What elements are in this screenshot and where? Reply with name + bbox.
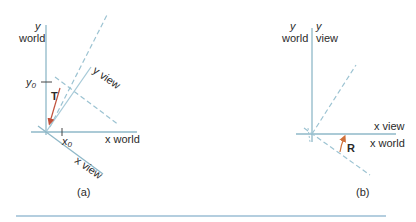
b-y-view-label-word: view [316, 32, 338, 44]
y-view-label: y view [91, 64, 123, 91]
panel-a: y world y0 x0 T x world y view x view (a… [18, 15, 140, 198]
rotation-label: R [347, 142, 355, 154]
panel-a-caption: (a) [77, 186, 90, 198]
y-world-label-word: world [18, 32, 45, 44]
translation-label: T [51, 90, 58, 102]
panel-b: y world y view x view x world R (b) [281, 20, 405, 198]
viewing-transformation-diagram: y world y0 x0 T x world y view x view (a… [0, 0, 416, 222]
panel-b-caption: (b) [356, 186, 369, 198]
b-y-world-label-word: world [281, 32, 308, 44]
dashed-origin-stub [308, 128, 310, 142]
y0-label: y0 [25, 76, 37, 90]
b-y-world-label-var: y [289, 20, 297, 32]
y-world-label-var: y [34, 20, 42, 32]
b-x-world-label: x world [370, 137, 405, 149]
x0-label: x0 [61, 135, 73, 149]
dashed-rotated-x-view [304, 128, 370, 175]
b-y-view-label-var: y [315, 20, 323, 32]
x-view-label: x view [73, 154, 105, 181]
rotation-arrow [340, 138, 344, 152]
b-x-view-label: x view [374, 120, 405, 132]
dashed-rotated-y-view [312, 65, 356, 134]
x-world-label: x world [105, 133, 140, 145]
